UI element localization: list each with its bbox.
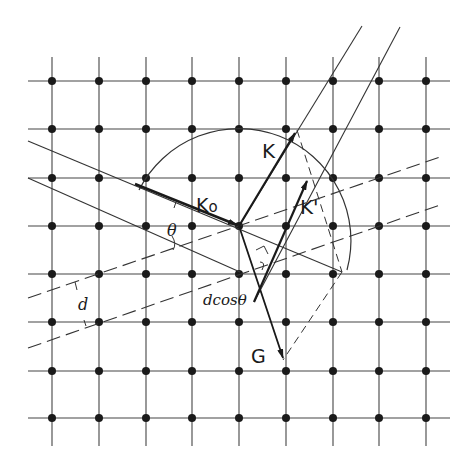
dcos-angle-marker (260, 262, 264, 270)
reflected-rays (239, 26, 400, 302)
right-angle-marker (256, 246, 268, 254)
label-dcos-theta: dcosθ (203, 291, 247, 309)
label-d: d (78, 295, 88, 314)
lattice-grid (28, 57, 450, 446)
label-theta: θ (167, 221, 177, 240)
label-g: G (251, 345, 266, 367)
ewald-diagram: Ko K K' G θ d dcosθ (0, 0, 466, 462)
k0-vector (135, 184, 237, 225)
label-k-prime: K' (300, 195, 319, 219)
label-k0: Ko (196, 194, 218, 216)
label-k: K (262, 139, 276, 163)
